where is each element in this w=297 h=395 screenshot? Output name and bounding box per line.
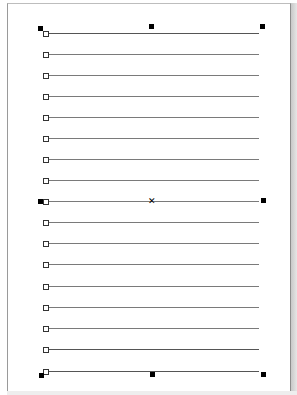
line-endpoint-handle[interactable] [43, 178, 49, 184]
rotation-center-icon[interactable]: ✕ [148, 198, 155, 205]
ruled-line[interactable] [46, 349, 259, 350]
page-bottom-gap [7, 391, 297, 395]
ruled-line[interactable] [46, 222, 259, 223]
line-endpoint-handle[interactable] [43, 136, 49, 142]
line-endpoint-handle[interactable] [43, 326, 49, 332]
line-endpoint-handle[interactable] [43, 262, 49, 268]
ruled-line[interactable] [46, 243, 259, 244]
ruled-line[interactable] [46, 138, 259, 139]
ruled-line[interactable] [46, 180, 259, 181]
line-endpoint-handle[interactable] [43, 73, 49, 79]
ruled-line[interactable] [46, 307, 259, 308]
resize-handle-bottom-right[interactable] [261, 372, 266, 377]
ruled-line[interactable] [46, 286, 259, 287]
line-endpoint-handle[interactable] [43, 31, 49, 37]
resize-handle-top-center[interactable] [149, 24, 154, 29]
resize-handle-top-right[interactable] [260, 24, 265, 29]
line-endpoint-handle[interactable] [43, 52, 49, 58]
ruled-line[interactable] [46, 264, 259, 265]
ruled-line[interactable] [46, 117, 259, 118]
ruled-line[interactable] [46, 159, 259, 160]
resize-handle-bottom-left[interactable] [39, 373, 44, 378]
line-endpoint-handle[interactable] [43, 241, 49, 247]
ruled-line[interactable] [46, 54, 259, 55]
line-endpoint-handle[interactable] [43, 220, 49, 226]
line-endpoint-handle[interactable] [43, 157, 49, 163]
line-endpoint-handle[interactable] [43, 347, 49, 353]
resize-handle-middle-right[interactable] [261, 198, 266, 203]
resize-handle-middle-left[interactable] [38, 199, 43, 204]
ruled-line[interactable] [46, 33, 259, 34]
page-shadow [291, 3, 297, 395]
line-endpoint-handle[interactable] [43, 305, 49, 311]
ruled-line[interactable] [46, 75, 259, 76]
resize-handle-bottom-center[interactable] [150, 372, 155, 377]
resize-handle-top-left[interactable] [38, 26, 43, 31]
line-endpoint-handle[interactable] [43, 284, 49, 290]
line-endpoint-handle[interactable] [43, 199, 49, 205]
line-endpoint-handle[interactable] [43, 115, 49, 121]
document-canvas: ✕ [0, 0, 297, 395]
ruled-line[interactable] [46, 328, 259, 329]
line-endpoint-handle[interactable] [43, 94, 49, 100]
ruled-line[interactable] [46, 96, 259, 97]
